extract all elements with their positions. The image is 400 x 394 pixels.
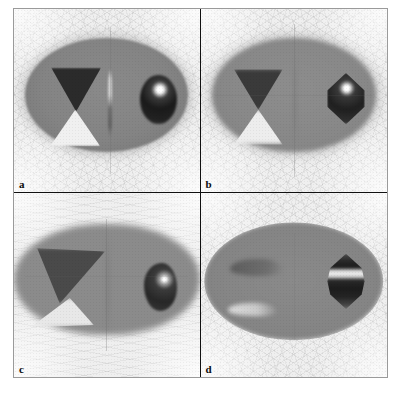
panel-label-d: d xyxy=(206,364,212,375)
panel-label-a: a xyxy=(19,179,25,190)
panel-label-b: b xyxy=(206,179,212,190)
seam-artifact-vertical xyxy=(106,219,107,351)
seam-artifact-horizontal xyxy=(25,276,188,277)
seam-artifact-horizontal xyxy=(215,95,372,96)
seam-artifact-vertical xyxy=(110,27,111,173)
panel-c: c xyxy=(14,193,201,377)
seam-artifact-vertical xyxy=(294,233,295,340)
figure-panel-grid: a b xyxy=(13,8,388,378)
panel-c-image xyxy=(14,193,200,377)
panel-a-image xyxy=(14,9,200,192)
bright-triangle-feature xyxy=(228,303,276,316)
sphere-feature xyxy=(144,263,177,311)
vertical-rod-feature xyxy=(107,233,109,336)
seam-artifact-vertical xyxy=(294,24,295,178)
panel-label-c: c xyxy=(19,364,24,375)
dark-triangle-feature xyxy=(230,259,282,276)
panel-b: b xyxy=(201,9,388,193)
panel-b-image xyxy=(201,9,388,192)
panel-d-image xyxy=(201,193,388,377)
panel-a: a xyxy=(14,9,201,193)
panel-d: d xyxy=(201,193,388,377)
